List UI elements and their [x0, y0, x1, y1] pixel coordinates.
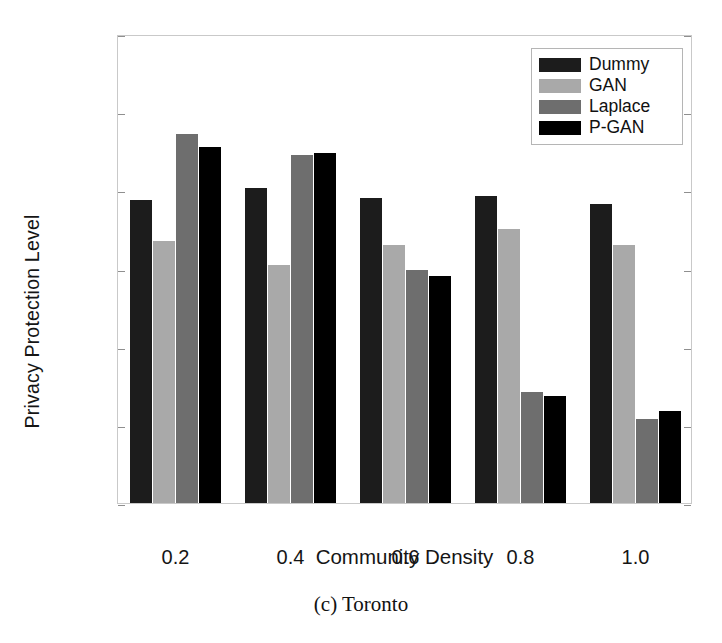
- bar: [475, 196, 497, 503]
- y-tick-mark: [118, 36, 125, 37]
- y-tick-mark: [684, 505, 691, 506]
- y-tick-mark: [684, 114, 691, 115]
- legend: DummyGANLaplaceP-GAN: [531, 48, 683, 145]
- bar: [130, 200, 152, 503]
- bar: [429, 276, 451, 503]
- legend-swatch: [539, 58, 581, 72]
- legend-label: P-GAN: [589, 119, 644, 137]
- bar: [360, 198, 382, 503]
- y-tick-mark: [118, 427, 125, 428]
- bar: [498, 229, 520, 503]
- figure-caption: (c) Toronto: [0, 592, 722, 617]
- bar: [383, 245, 405, 503]
- legend-item-dummy: Dummy: [539, 54, 675, 75]
- y-tick-mark: [684, 271, 691, 272]
- bar: [613, 245, 635, 503]
- bar: [314, 153, 336, 503]
- bar: [245, 188, 267, 503]
- legend-item-laplace: Laplace: [539, 96, 675, 117]
- bar: [406, 270, 428, 503]
- y-axis-title-wrapper: Privacy Protection Level: [8, 0, 48, 643]
- y-tick-mark: [684, 36, 691, 37]
- bar: [636, 419, 658, 503]
- y-tick-mark: [118, 192, 125, 193]
- y-tick-mark: [118, 114, 125, 115]
- legend-swatch: [539, 79, 581, 93]
- bar: [199, 147, 221, 503]
- y-tick-mark: [118, 505, 125, 506]
- legend-label: GAN: [589, 77, 627, 95]
- y-tick-mark: [684, 427, 691, 428]
- y-axis-title: Privacy Protection Level: [8, 0, 56, 643]
- y-tick-mark: [118, 271, 125, 272]
- figure-container: Privacy Protection Level 00.20.40.60.811…: [0, 0, 722, 643]
- bar: [153, 241, 175, 503]
- y-tick-mark: [684, 192, 691, 193]
- legend-swatch: [539, 121, 581, 135]
- legend-label: Dummy: [589, 56, 649, 74]
- y-tick-mark: [118, 349, 125, 350]
- bar: [176, 134, 198, 503]
- bar: [659, 411, 681, 503]
- x-axis-title: Community Density: [117, 545, 692, 569]
- y-tick-mark: [684, 349, 691, 350]
- legend-label: Laplace: [589, 98, 650, 116]
- bar: [544, 396, 566, 503]
- bar: [521, 392, 543, 503]
- bar: [291, 155, 313, 503]
- legend-item-gan: GAN: [539, 75, 675, 96]
- bar: [268, 265, 290, 503]
- legend-swatch: [539, 100, 581, 114]
- bar: [590, 204, 612, 503]
- legend-item-p-gan: P-GAN: [539, 117, 675, 138]
